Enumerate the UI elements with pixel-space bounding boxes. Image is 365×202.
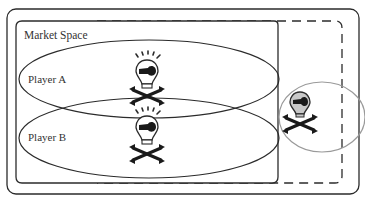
- player-b-label: Player B: [28, 131, 66, 143]
- player-a-label: Player A: [28, 73, 66, 85]
- pirate-bulb-icon-outsider: [290, 92, 310, 117]
- market-space-box: [16, 21, 278, 183]
- outsider-ellipse: [279, 82, 365, 152]
- market-space-label: Market Space: [24, 29, 88, 42]
- market-space-diagram: Market Space Player A Player B: [0, 0, 365, 202]
